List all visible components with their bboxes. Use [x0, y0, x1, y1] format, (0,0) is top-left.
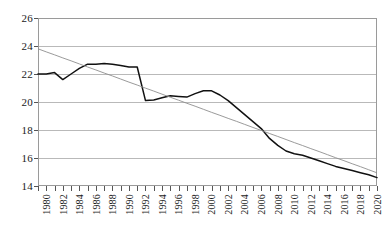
x-tick-mark-2012: [303, 186, 304, 191]
x-tick-mark-1992: [137, 186, 138, 191]
x-tick-label-2018: 2018: [356, 194, 366, 215]
x-tick-label-2012: 2012: [307, 194, 317, 215]
series-layer: [38, 18, 377, 186]
x-tick-label-1994: 1994: [158, 194, 168, 215]
x-tick-mark-1995: [162, 186, 163, 191]
x-tick-label-2014: 2014: [323, 194, 333, 215]
x-tick-mark-1984: [71, 186, 72, 191]
y-tick-label-18: 18: [22, 125, 33, 136]
x-tick-label-1996: 1996: [174, 194, 184, 215]
x-tick-mark-1999: [195, 186, 196, 191]
y-tick-label-16: 16: [22, 153, 33, 164]
x-tick-label-1980: 1980: [42, 194, 52, 215]
x-tick-label-2006: 2006: [257, 194, 267, 215]
x-tick-mark-1991: [129, 186, 130, 191]
x-tick-mark-1998: [187, 186, 188, 191]
x-tick-mark-1981: [46, 186, 47, 191]
x-tick-mark-2020: [369, 186, 370, 191]
x-tick-mark-2013: [311, 186, 312, 191]
x-tick-label-1992: 1992: [141, 194, 151, 215]
x-tick-mark-2005: [245, 186, 246, 191]
x-tick-label-2020: 2020: [373, 194, 383, 215]
x-tick-mark-2009: [278, 186, 279, 191]
x-tick-mark-1994: [154, 186, 155, 191]
y-tick-label-26: 26: [22, 13, 33, 24]
y-tick-label-20: 20: [22, 97, 33, 108]
figure: 14161820222426 1980198219841986198819901…: [0, 0, 388, 239]
x-tick-mark-2018: [352, 186, 353, 191]
x-tick-mark-1990: [121, 186, 122, 191]
x-tick-mark-2016: [336, 186, 337, 191]
series-line-linear-trend: [38, 49, 377, 173]
series-line-observed: [38, 64, 377, 178]
x-tick-mark-1987: [96, 186, 97, 191]
y-tick-label-24: 24: [22, 41, 33, 52]
x-tick-mark-2017: [344, 186, 345, 191]
x-tick-mark-2019: [360, 186, 361, 191]
x-tick-label-2002: 2002: [224, 194, 234, 215]
x-tick-label-2008: 2008: [274, 194, 284, 215]
x-tick-mark-1986: [88, 186, 89, 191]
x-tick-mark-1997: [179, 186, 180, 191]
x-tick-mark-1980: [38, 186, 39, 191]
x-tick-mark-2004: [236, 186, 237, 191]
x-tick-mark-2002: [220, 186, 221, 191]
x-tick-mark-2007: [261, 186, 262, 191]
x-tick-label-2010: 2010: [290, 194, 300, 215]
x-tick-mark-1989: [112, 186, 113, 191]
x-tick-mark-1982: [55, 186, 56, 191]
x-tick-mark-2003: [228, 186, 229, 191]
x-tick-label-2016: 2016: [340, 194, 350, 215]
x-tick-label-2000: 2000: [207, 194, 217, 215]
x-axis: 1980198219841986198819901992199419961998…: [38, 186, 377, 239]
x-tick-mark-1985: [79, 186, 80, 191]
x-tick-mark-1996: [170, 186, 171, 191]
x-tick-mark-2008: [270, 186, 271, 191]
x-tick-mark-2021: [377, 186, 378, 191]
x-tick-label-1990: 1990: [125, 194, 135, 215]
x-tick-mark-2006: [253, 186, 254, 191]
x-tick-label-1998: 1998: [191, 194, 201, 215]
x-tick-label-1986: 1986: [92, 194, 102, 215]
x-tick-mark-2011: [294, 186, 295, 191]
x-tick-label-1982: 1982: [59, 194, 69, 215]
x-tick-mark-1988: [104, 186, 105, 191]
x-tick-label-2004: 2004: [240, 194, 250, 215]
y-tick-label-14: 14: [22, 181, 33, 192]
x-tick-mark-2000: [203, 186, 204, 191]
x-tick-mark-2015: [327, 186, 328, 191]
x-tick-mark-1993: [145, 186, 146, 191]
x-tick-mark-2010: [286, 186, 287, 191]
x-tick-mark-1983: [63, 186, 64, 191]
x-tick-mark-2014: [319, 186, 320, 191]
y-tick-label-22: 22: [22, 69, 33, 80]
y-axis: 14161820222426: [0, 0, 38, 239]
x-tick-label-1984: 1984: [75, 194, 85, 215]
x-tick-mark-2001: [212, 186, 213, 191]
x-tick-label-1988: 1988: [108, 194, 118, 215]
